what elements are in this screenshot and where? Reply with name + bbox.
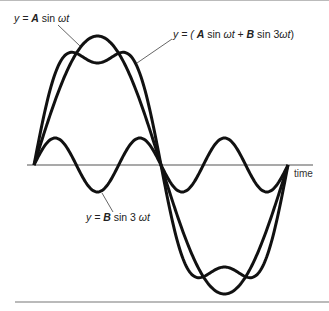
leader-line-sum [137,39,172,63]
label-b-wave: y = B sin 3 ωt [85,211,151,223]
label-a-wave: y = A sin ωt [13,12,70,24]
time-axis-label: time [294,168,313,179]
label-sum-wave: y = ( A sin ωt + B sin 3ωt) [172,28,294,40]
leader-line-a [58,25,80,46]
leader-line-b [102,193,113,212]
waveform-diagram: y = A sin ωt y = ( A sin ωt + B sin 3ωt)… [0,0,329,311]
